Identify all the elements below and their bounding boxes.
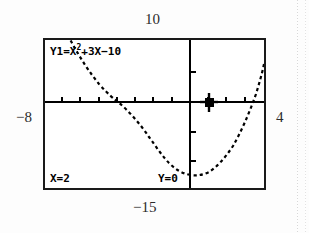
x-value-readout: X=2 <box>50 173 70 184</box>
equation-suffix: +3X−10 <box>81 45 121 58</box>
window-xmax-label: 4 <box>276 110 284 125</box>
window-xmin-label: −8 <box>16 110 32 125</box>
parabola-curve <box>45 40 264 175</box>
equation-prefix: Y1=X <box>50 45 77 58</box>
equation-label: Y1=X2+3X−10 <box>50 46 121 57</box>
window-ymin-label: −15 <box>133 200 156 215</box>
y-value-readout: Y=0 <box>158 173 178 184</box>
page-edge-artifact <box>297 0 298 233</box>
graph-plot <box>45 40 264 188</box>
scanned-page: 10 −8 4 −15 <box>0 0 309 233</box>
page-edge-artifact-secondary <box>305 0 306 233</box>
trace-cursor <box>200 93 218 112</box>
window-ymax-label: 10 <box>145 12 160 27</box>
graphing-calculator-screen[interactable]: Y1=X2+3X−10 X=2 Y=0 <box>43 38 266 190</box>
plot-area: Y1=X2+3X−10 X=2 Y=0 <box>45 40 264 188</box>
